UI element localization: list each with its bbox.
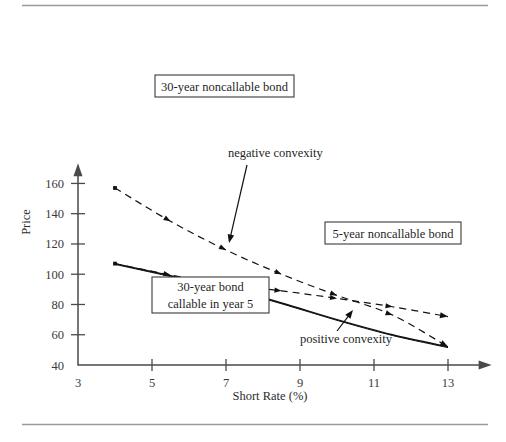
chart-callouts-group: 30-year noncallable bond5-year noncallab… — [152, 75, 461, 313]
y-tick-label-40: 40 — [52, 359, 65, 373]
x-axis-label: Short Rate (%) — [233, 389, 308, 403]
x-tick-label-13: 13 — [442, 376, 455, 390]
x-tick-label-3: 3 — [75, 376, 81, 390]
x-tick-label-7: 7 — [223, 376, 229, 390]
y-axis-ticks: 406080100120140160 — [45, 177, 85, 373]
y-tick-label-140: 140 — [45, 207, 64, 221]
callout-box-30y-callable: 30-year bondcallable in year 5 — [152, 277, 269, 313]
y-tick-label-160: 160 — [45, 177, 64, 191]
y-axis-label: Price — [19, 209, 33, 235]
annotation-text-positive-convexity: positive convexity — [300, 332, 393, 346]
callout-line: 5-year noncallable bond — [333, 227, 455, 241]
y-tick-label-80: 80 — [52, 298, 65, 312]
chart-series-group — [113, 186, 449, 349]
y-tick-label-120: 120 — [45, 237, 64, 251]
chart-annotations-group: negative convexitypositive convexity — [226, 146, 393, 346]
callout-box-30y-noncallable: 30-year noncallable bond — [155, 75, 294, 97]
series-0 — [113, 186, 449, 349]
callout-box-5y-noncallable: 5-year noncallable bond — [325, 222, 461, 244]
y-tick-label-100: 100 — [45, 268, 64, 282]
convexity-chart-figure: 406080100120140160 35791113 Short Rate (… — [0, 0, 506, 442]
x-axis-ticks: 35791113 — [75, 359, 454, 390]
callout-line: 30-year bond — [177, 280, 244, 294]
callout-line: 30-year noncallable bond — [161, 80, 289, 94]
chart-axes — [74, 163, 492, 369]
annotation-negative-convexity: negative convexity — [226, 146, 324, 244]
callout-line: callable in year 5 — [168, 297, 254, 311]
x-tick-label-9: 9 — [297, 376, 303, 390]
y-tick-label-60: 60 — [52, 328, 65, 342]
x-tick-label-11: 11 — [368, 376, 380, 390]
x-tick-label-5: 5 — [149, 376, 155, 390]
annotation-text-negative-convexity: negative convexity — [228, 146, 324, 160]
